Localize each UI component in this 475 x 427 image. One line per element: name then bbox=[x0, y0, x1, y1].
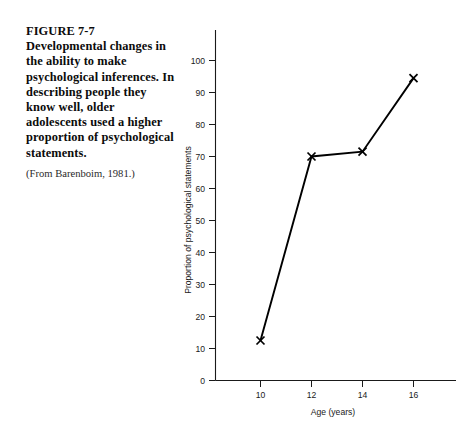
x-tick-16: 16 bbox=[409, 381, 419, 401]
svg-text:20: 20 bbox=[195, 312, 205, 322]
line-chart: 0 10 20 30 40 50 60 70 80 90 100 10 12 1… bbox=[0, 0, 475, 427]
y-tick-90: 90 bbox=[195, 88, 215, 98]
y-tick-80: 80 bbox=[195, 120, 215, 130]
y-tick-40: 40 bbox=[195, 248, 215, 258]
y-tick-20: 20 bbox=[195, 312, 215, 322]
x-tick-12: 12 bbox=[307, 381, 317, 401]
svg-text:10: 10 bbox=[256, 390, 266, 400]
y-tick-70: 70 bbox=[195, 152, 215, 162]
svg-text:10: 10 bbox=[195, 344, 205, 354]
data-point-age-16 bbox=[410, 74, 418, 82]
svg-text:0: 0 bbox=[200, 376, 205, 386]
x-tick-10: 10 bbox=[256, 381, 266, 401]
x-tick-14: 14 bbox=[358, 381, 368, 401]
svg-text:40: 40 bbox=[195, 248, 205, 258]
svg-text:12: 12 bbox=[307, 390, 317, 400]
y-tick-100: 100 bbox=[191, 56, 216, 66]
svg-text:14: 14 bbox=[358, 390, 368, 400]
y-tick-10: 10 bbox=[195, 344, 215, 354]
svg-text:50: 50 bbox=[195, 216, 205, 226]
x-axis-title: Age (years) bbox=[311, 407, 356, 417]
svg-text:80: 80 bbox=[195, 120, 205, 130]
svg-text:90: 90 bbox=[195, 88, 205, 98]
figure-page: FIGURE 7-7Developmental changes in the a… bbox=[0, 0, 475, 427]
chart-svg: 0 10 20 30 40 50 60 70 80 90 100 10 12 1… bbox=[0, 0, 475, 427]
y-tick-0: 0 bbox=[200, 376, 215, 386]
y-tick-50: 50 bbox=[195, 216, 215, 226]
y-axis-title: Proportion of psychological statements bbox=[183, 146, 193, 294]
svg-text:70: 70 bbox=[195, 152, 205, 162]
y-axis-ticks: 0 10 20 30 40 50 60 70 80 90 100 bbox=[191, 56, 216, 386]
svg-text:100: 100 bbox=[191, 56, 206, 66]
svg-text:60: 60 bbox=[195, 184, 205, 194]
svg-text:30: 30 bbox=[195, 280, 205, 290]
data-series-line bbox=[261, 78, 414, 340]
y-tick-30: 30 bbox=[195, 280, 215, 290]
svg-text:16: 16 bbox=[409, 390, 419, 400]
x-axis-ticks: 10 12 14 16 bbox=[256, 381, 419, 401]
data-markers bbox=[257, 74, 418, 344]
y-tick-60: 60 bbox=[195, 184, 215, 194]
